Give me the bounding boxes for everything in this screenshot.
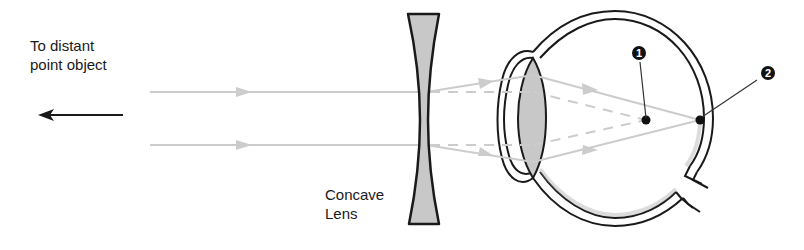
- concave-lens: [408, 14, 439, 224]
- concave-lens-label-line1: Concave: [325, 185, 384, 204]
- distant-object-label: To distant point object: [30, 36, 107, 74]
- svg-text:2: 2: [765, 67, 771, 79]
- refracted-rays: [426, 75, 700, 162]
- concave-lens-label: Concave Lens: [325, 185, 384, 223]
- concave-lens-label-line2: Lens: [325, 204, 384, 223]
- callout-1-badge: 1: [632, 46, 646, 60]
- callout-1-leader: [640, 62, 646, 118]
- optic-nerve: [676, 166, 708, 212]
- object-direction-arrow: [38, 109, 123, 121]
- distant-object-label-line1: To distant: [30, 36, 107, 55]
- callout-2-leader: [702, 80, 757, 117]
- myopia-correction-diagram: 1 2: [0, 0, 804, 250]
- distant-object-label-line2: point object: [30, 55, 107, 74]
- svg-text:1: 1: [636, 47, 642, 59]
- eyeball: [533, 11, 713, 226]
- callout-2-badge: 2: [761, 66, 775, 80]
- incoming-rays: [150, 87, 420, 150]
